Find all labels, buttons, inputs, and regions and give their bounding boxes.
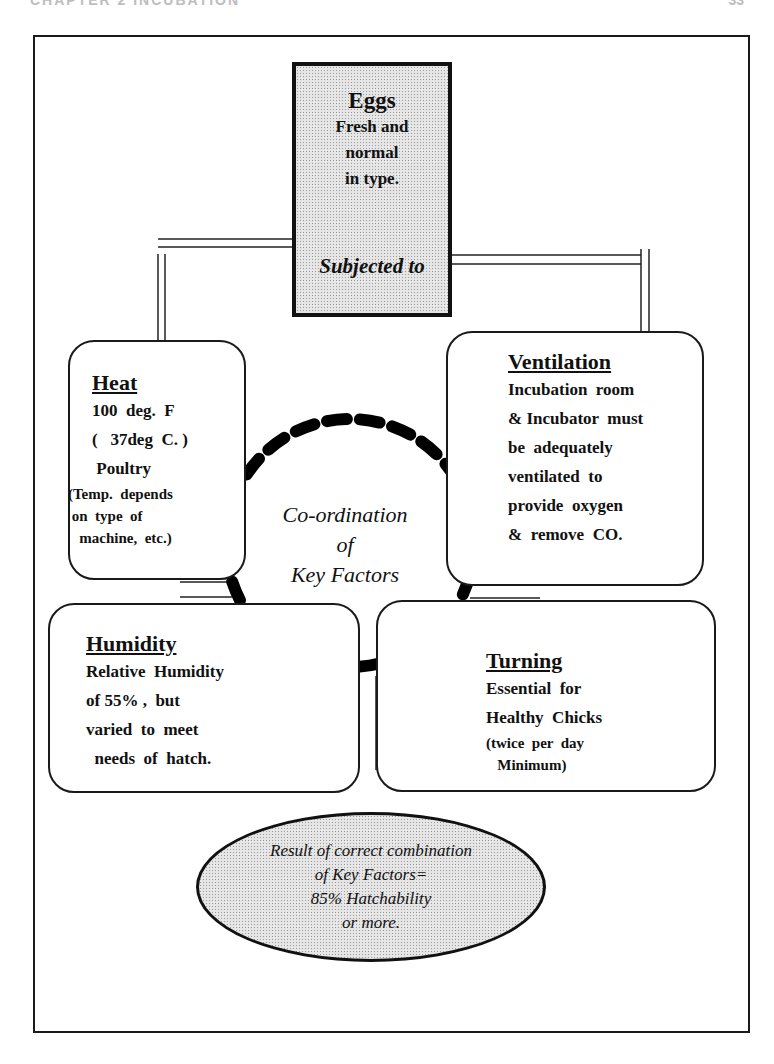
turning-box: Turning Essential for Healthy Chicks (tw… <box>376 600 716 792</box>
humidity-box: Humidity Relative Humidity of 55% , but … <box>48 603 360 793</box>
eggs-subjected-to: Subjected to <box>296 254 448 279</box>
ventilation-line: be adequately <box>508 433 702 462</box>
ventilation-line: provide oxygen <box>508 491 702 520</box>
coordination-line: of <box>240 530 450 560</box>
turning-note: Minimum) <box>486 754 714 776</box>
humidity-title: Humidity <box>86 631 358 657</box>
humidity-line: varied to meet <box>86 715 358 744</box>
heat-line: Poultry <box>92 454 244 483</box>
humidity-line: needs of hatch. <box>86 744 358 773</box>
result-line: Result of correct combination <box>199 839 543 863</box>
ventilation-line: & Incubator must <box>508 404 702 433</box>
result-line: 85% Hatchability <box>199 887 543 911</box>
result-line: of Key Factors= <box>199 863 543 887</box>
coordination-label: Co-ordination of Key Factors <box>240 500 450 590</box>
humidity-line: of 55% , but <box>86 686 358 715</box>
eggs-line: normal <box>296 140 448 166</box>
connector-eggs-heat <box>158 239 296 342</box>
eggs-line: Fresh and <box>296 114 448 140</box>
coordination-line: Co-ordination <box>240 500 450 530</box>
humidity-line: Relative Humidity <box>86 657 358 686</box>
heat-line: ( 37deg C. ) <box>92 425 244 454</box>
ventilation-line: & remove CO. <box>508 520 702 549</box>
ventilation-title: Ventilation <box>508 349 702 375</box>
turning-note: (twice per day <box>486 732 714 754</box>
connector-humidity-turning <box>358 676 376 770</box>
turning-line: Essential for <box>486 674 714 703</box>
eggs-title: Eggs <box>296 88 448 114</box>
result-ellipse: Result of correct combination of Key Fac… <box>196 812 546 962</box>
result-line: or more. <box>199 911 543 935</box>
ventilation-box: Ventilation Incubation room & Incubator … <box>446 331 704 586</box>
eggs-line: in type. <box>296 166 448 192</box>
heat-note: on type of <box>68 505 244 527</box>
ventilation-line: ventilated to <box>508 462 702 491</box>
heat-box: Heat 100 deg. F ( 37deg C. ) Poultry (Te… <box>68 340 246 580</box>
heat-line: 100 deg. F <box>92 396 244 425</box>
heat-note: machine, etc.) <box>68 527 244 549</box>
eggs-box: Eggs Fresh and normal in type. Subjected… <box>292 62 452 317</box>
turning-title: Turning <box>486 648 714 674</box>
heat-title: Heat <box>92 370 244 396</box>
ventilation-line: Incubation room <box>508 375 702 404</box>
coordination-line: Key Factors <box>240 560 450 590</box>
turning-line: Healthy Chicks <box>486 703 714 732</box>
connector-eggs-ventilation <box>448 249 649 342</box>
heat-note: (Temp. depends <box>68 483 244 505</box>
